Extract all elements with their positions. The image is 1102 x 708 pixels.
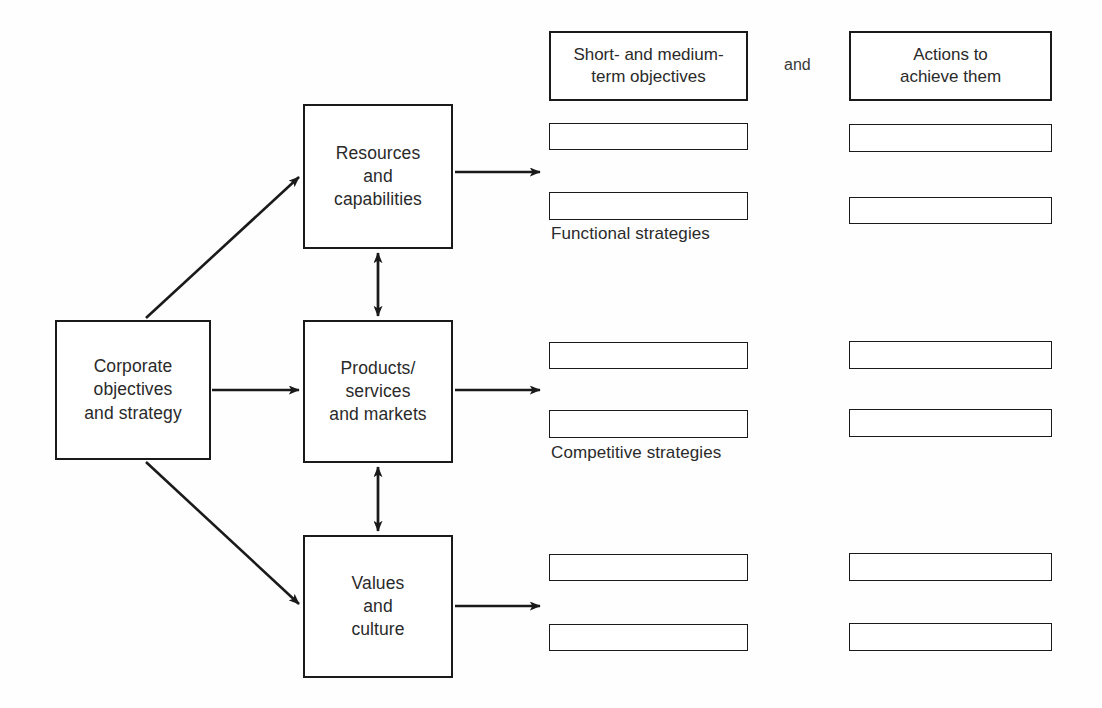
- connector-corporate-to-resources: [146, 177, 299, 318]
- bar-functional-actions-1[interactable]: [849, 124, 1052, 152]
- diagram-canvas: Corporate objectives and strategy Resour…: [0, 0, 1102, 708]
- bar-competitive-objectives-1[interactable]: [549, 342, 748, 369]
- row-caption-functional: Functional strategies: [551, 224, 710, 244]
- bar-competitive-objectives-2[interactable]: [549, 410, 748, 438]
- bar-competitive-actions-2[interactable]: [849, 409, 1052, 437]
- node-values-label: Values and culture: [351, 572, 404, 641]
- node-resources[interactable]: Resources and capabilities: [303, 104, 453, 249]
- bar-unlabelled-objectives-1[interactable]: [549, 554, 748, 581]
- bar-functional-objectives-2[interactable]: [549, 192, 748, 220]
- connector-corporate-to-values: [146, 462, 299, 604]
- bar-unlabelled-actions-1[interactable]: [849, 553, 1052, 581]
- column-header-actions-label: Actions to achieve them: [900, 44, 1001, 88]
- node-resources-label: Resources and capabilities: [334, 142, 422, 211]
- node-products[interactable]: Products/ services and markets: [303, 320, 453, 463]
- bar-competitive-actions-1[interactable]: [849, 341, 1052, 369]
- bar-unlabelled-actions-2[interactable]: [849, 623, 1052, 651]
- row-caption-competitive: Competitive strategies: [551, 443, 721, 463]
- bar-functional-objectives-1[interactable]: [549, 123, 748, 150]
- node-corporate-label: Corporate objectives and strategy: [84, 355, 182, 424]
- bar-functional-actions-2[interactable]: [849, 197, 1052, 224]
- node-corporate[interactable]: Corporate objectives and strategy: [55, 320, 211, 460]
- column-header-objectives[interactable]: Short- and medium- term objectives: [549, 31, 748, 101]
- node-values[interactable]: Values and culture: [303, 535, 453, 678]
- column-header-actions[interactable]: Actions to achieve them: [849, 31, 1052, 101]
- column-header-objectives-label: Short- and medium- term objectives: [573, 44, 723, 88]
- bar-unlabelled-objectives-2[interactable]: [549, 624, 748, 651]
- conjunction-and: and: [784, 56, 811, 74]
- node-products-label: Products/ services and markets: [329, 357, 426, 426]
